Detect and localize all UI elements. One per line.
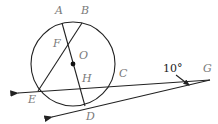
label-g: G [203,62,212,75]
label-b: B [80,4,89,17]
label-c: C [119,67,128,80]
label-o: O [79,49,88,62]
label-e: E [27,93,36,106]
label-d: D [85,110,95,123]
label-h: H [81,72,92,85]
angle-pointer-arrow [176,75,189,85]
label-f: F [52,37,61,50]
center-point-o [71,62,76,67]
angle-label: 10° [163,62,183,75]
geometry-diagram: A B F O H C E D G 10° [0,0,218,124]
label-a: A [54,4,63,17]
